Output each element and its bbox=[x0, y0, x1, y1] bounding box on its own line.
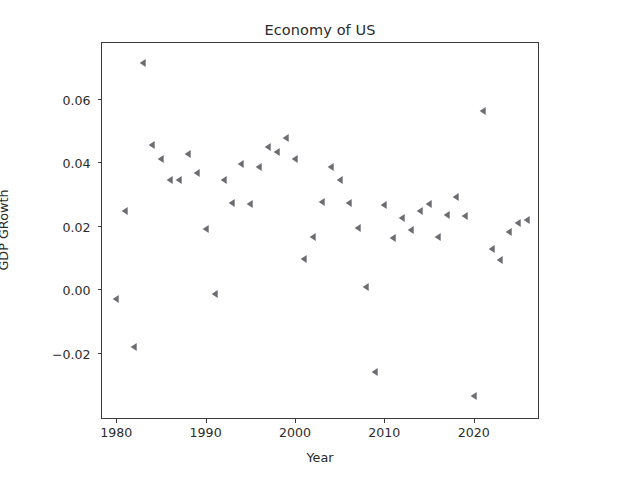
plot-area: −0.020.000.020.040.06 198019902000201020… bbox=[101, 42, 539, 419]
y-tick-label: 0.00 bbox=[62, 283, 90, 298]
data-point bbox=[131, 342, 137, 350]
data-point bbox=[122, 207, 128, 215]
x-tick-mark bbox=[116, 418, 117, 423]
data-point bbox=[193, 169, 199, 177]
data-point bbox=[318, 198, 324, 206]
data-point bbox=[292, 155, 298, 163]
data-point bbox=[408, 226, 414, 234]
y-tick-mark: 0.06 bbox=[98, 99, 103, 100]
data-point bbox=[327, 163, 333, 171]
data-point bbox=[461, 211, 467, 219]
data-point bbox=[167, 176, 173, 184]
data-point bbox=[140, 59, 146, 67]
x-tick-mark bbox=[384, 418, 385, 423]
y-tick-label: 0.02 bbox=[62, 219, 90, 234]
data-point bbox=[381, 201, 387, 209]
data-point bbox=[274, 148, 280, 156]
data-point bbox=[283, 134, 289, 142]
data-point bbox=[506, 228, 512, 236]
data-point bbox=[390, 234, 396, 242]
x-tick-mark bbox=[474, 418, 475, 423]
data-point bbox=[426, 200, 432, 208]
y-axis-label: GDP GRowth bbox=[0, 189, 11, 270]
data-point bbox=[310, 233, 316, 241]
data-point bbox=[497, 256, 503, 264]
data-point bbox=[354, 224, 360, 232]
x-tick-label: 2000 bbox=[279, 425, 311, 440]
data-point bbox=[488, 245, 494, 253]
data-point bbox=[113, 295, 119, 303]
data-point bbox=[202, 225, 208, 233]
x-axis-label: Year bbox=[101, 450, 539, 465]
scatter-points-layer bbox=[102, 43, 538, 418]
data-point bbox=[184, 150, 190, 158]
x-tick-label: 1980 bbox=[100, 425, 132, 440]
data-point bbox=[345, 199, 351, 207]
data-point bbox=[211, 290, 217, 298]
y-tick-mark: 0.02 bbox=[98, 226, 103, 227]
x-tick-mark bbox=[295, 418, 296, 423]
data-point bbox=[176, 176, 182, 184]
data-point bbox=[149, 141, 155, 149]
x-tick-label: 2020 bbox=[458, 425, 490, 440]
data-point bbox=[238, 160, 244, 168]
chart-title: Economy of US bbox=[100, 22, 540, 38]
data-point bbox=[220, 176, 226, 184]
x-tick-mark bbox=[206, 418, 207, 423]
data-point bbox=[256, 163, 262, 171]
data-point bbox=[372, 368, 378, 376]
y-tick-mark: 0.00 bbox=[98, 289, 103, 290]
y-tick-label: 0.06 bbox=[62, 92, 90, 107]
y-tick-mark: −0.02 bbox=[98, 353, 103, 354]
data-point bbox=[479, 107, 485, 115]
x-tick-label: 1990 bbox=[190, 425, 222, 440]
y-tick-mark: 0.04 bbox=[98, 162, 103, 163]
data-point bbox=[515, 219, 521, 227]
data-point bbox=[363, 283, 369, 291]
data-point bbox=[229, 199, 235, 207]
data-point bbox=[265, 143, 271, 151]
data-point bbox=[470, 392, 476, 400]
data-point bbox=[417, 207, 423, 215]
chart-figure: Economy of US −0.020.000.020.040.06 1980… bbox=[0, 0, 632, 484]
data-point bbox=[247, 200, 253, 208]
x-tick-label: 2010 bbox=[368, 425, 400, 440]
data-point bbox=[524, 216, 530, 224]
data-point bbox=[399, 214, 405, 222]
y-tick-label: −0.02 bbox=[52, 346, 91, 361]
y-tick-label: 0.04 bbox=[62, 156, 90, 171]
data-point bbox=[336, 176, 342, 184]
data-point bbox=[444, 211, 450, 219]
data-point bbox=[158, 155, 164, 163]
data-point bbox=[301, 255, 307, 263]
data-point bbox=[452, 193, 458, 201]
data-point bbox=[435, 233, 441, 241]
